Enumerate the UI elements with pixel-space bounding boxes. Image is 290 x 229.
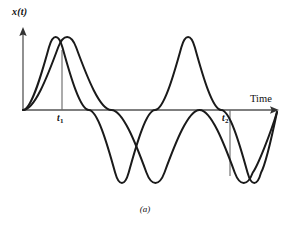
x-axis-label: Time bbox=[250, 94, 272, 105]
y-axis-label: x(t) bbox=[12, 7, 27, 17]
t1-marker-label: t1 bbox=[57, 114, 64, 125]
figure-container: x(t) Time t1 t2 (a) bbox=[0, 0, 290, 229]
waveform-plot bbox=[0, 0, 290, 229]
figure-caption: (a) bbox=[0, 205, 290, 214]
t2-marker-label: t2 bbox=[222, 114, 229, 125]
t2-label-subscript: 2 bbox=[225, 117, 229, 125]
y-axis bbox=[19, 27, 26, 110]
t1-label-subscript: 1 bbox=[60, 117, 64, 125]
